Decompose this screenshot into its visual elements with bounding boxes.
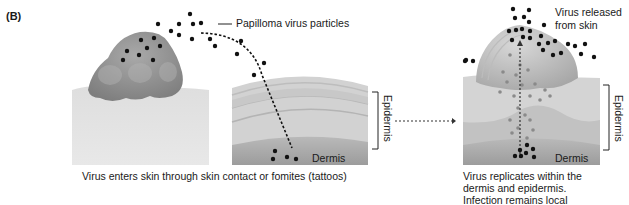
epidermis-label-right: Epidermis (613, 95, 625, 142)
caption-right-line2: dermis and epidermis. (463, 182, 566, 195)
caption-left: Virus enters skin through skin contact o… (82, 170, 347, 183)
infected-skin-illustration (463, 25, 600, 165)
dermis-label-right: Dermis (555, 152, 588, 165)
caption-right-line1: Virus replicates within the (463, 170, 582, 183)
skin-layers-illustration (232, 76, 368, 165)
skin-with-wart-illustration (72, 32, 209, 165)
epidermis-bracket-right (603, 85, 609, 150)
epidermis-label-left: Epidermis (382, 95, 394, 142)
dermis-label-left: Dermis (312, 152, 345, 165)
epidermis-bracket-left (372, 92, 378, 149)
caption-right-line3: Infection remains local (463, 194, 567, 205)
particles-label: Papilloma virus particles (236, 17, 349, 30)
arrow-head-icon (452, 118, 456, 124)
released-label-line1: Virus released (555, 6, 622, 19)
released-label-line2: from skin (555, 19, 598, 32)
